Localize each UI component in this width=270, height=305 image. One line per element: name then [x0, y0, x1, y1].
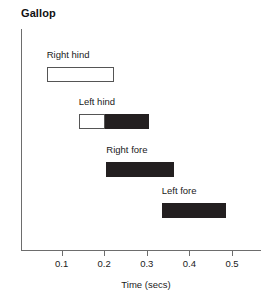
x-tick-mark — [189, 251, 190, 256]
x-axis-title-text: Time (secs) — [121, 279, 170, 290]
bar-label-right-fore: Right fore — [106, 144, 147, 155]
bar-label-right-hind: Right hind — [47, 49, 90, 60]
bar-right-fore — [106, 162, 173, 177]
bar-label-left-fore: Left fore — [162, 185, 197, 196]
x-tick-mark — [104, 251, 105, 256]
x-tick-label: 0.5 — [225, 258, 238, 269]
x-axis-line — [21, 250, 261, 251]
x-tick-label: 0.3 — [140, 258, 153, 269]
x-axis-title: Time (secs) — [0, 279, 270, 290]
bar-label-left-hind: Left hind — [79, 96, 115, 107]
y-axis-line — [21, 29, 22, 251]
bar-segment-filled — [162, 203, 227, 218]
bar-segment-open — [79, 114, 105, 129]
x-tick-label: 0.2 — [98, 258, 111, 269]
bar-segment-filled — [105, 114, 149, 129]
gallop-gait-chart: Gallop 0.10.20.30.40.5 Time (secs) Right… — [0, 0, 270, 305]
bar-segment-open — [47, 67, 114, 82]
bar-left-fore — [162, 203, 227, 218]
bar-segment-filled — [106, 162, 173, 177]
x-tick-mark — [62, 251, 63, 256]
bar-left-hind — [79, 114, 149, 129]
x-tick-mark — [147, 251, 148, 256]
x-tick-label: 0.4 — [183, 258, 196, 269]
x-tick-mark — [232, 251, 233, 256]
bar-right-hind — [47, 67, 114, 82]
page-title: Gallop — [21, 7, 56, 19]
x-tick-label: 0.1 — [55, 258, 68, 269]
